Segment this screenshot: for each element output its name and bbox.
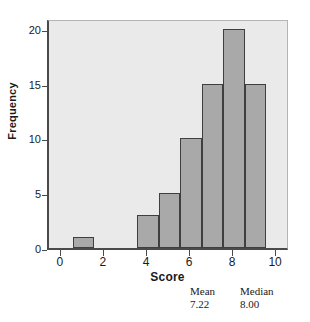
histogram-bar [202,84,224,248]
y-tick-mark [42,250,47,251]
histogram-bar [180,138,202,248]
y-tick: 10 [0,134,41,145]
x-tick-label: 4 [133,256,159,268]
x-tick-label: 10 [262,256,288,268]
histogram-bar [137,215,159,248]
bars-group [49,21,287,248]
x-tick-label: 0 [47,256,73,268]
histogram-bar [245,84,267,248]
annotation-median: Median 8.00 [240,285,274,311]
histogram-bar [223,29,245,248]
histogram-bar [159,193,181,248]
y-tick: 5 [0,189,41,200]
x-tick-label: 6 [176,256,202,268]
x-tick-label: 8 [219,256,245,268]
annotation-median-label: Median [240,285,274,298]
y-tick-label: 0 [21,244,41,255]
y-tick: 20 [0,25,41,36]
x-axis-label: Score [47,270,288,284]
annotation-median-value: 8.00 [240,298,274,311]
annotation-mean-label: Mean [190,285,215,298]
x-tick-label: 2 [90,256,116,268]
annotation-mean-value: 7.22 [190,298,215,311]
plot-area [47,20,288,250]
y-tick-label: 20 [21,25,41,36]
y-tick: 0 [0,244,41,255]
annotation-mean: Mean 7.22 [190,285,215,311]
histogram-figure: Frequency 05101520 0246810 Score Mean 7.… [0,0,310,322]
y-tick-label: 15 [21,80,41,91]
y-tick: 15 [0,80,41,91]
histogram-bar [73,237,95,248]
y-axis-label: Frequency [6,61,18,161]
y-tick-label: 10 [21,134,41,145]
y-tick-label: 5 [21,189,41,200]
